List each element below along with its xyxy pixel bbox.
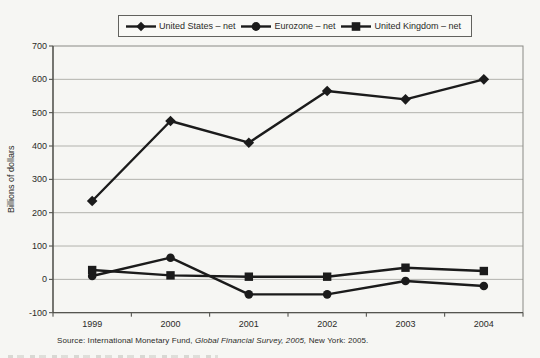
svg-text:0: 0 (42, 274, 47, 284)
y-gridlines (53, 79, 523, 279)
source-prefix: Source: International Monetary Fund, (57, 336, 195, 345)
source-title-italic: Global Financial Survey, 2005, (195, 336, 306, 345)
svg-text:100: 100 (32, 241, 47, 251)
svg-text:2003: 2003 (395, 319, 415, 329)
svg-text:-100: -100 (29, 308, 47, 318)
svg-text:2004: 2004 (474, 319, 494, 329)
y-axis-title: Billions of dollars (6, 145, 16, 213)
scanned-chart-figure: United States – net Eurozone – net Unite… (0, 0, 540, 358)
svg-text:400: 400 (32, 141, 47, 151)
line-chart: -100010020030040050060070019992000200120… (0, 0, 540, 358)
svg-text:2002: 2002 (317, 319, 337, 329)
series-square (88, 263, 488, 280)
svg-text:2000: 2000 (160, 319, 180, 329)
svg-text:700: 700 (32, 41, 47, 51)
svg-text:2001: 2001 (239, 319, 259, 329)
svg-text:600: 600 (32, 74, 47, 84)
x-tick-labels: 199920002001200220032004 (82, 319, 494, 329)
y-tick-labels: -1000100200300400500600700 (29, 41, 47, 318)
svg-text:300: 300 (32, 174, 47, 184)
source-note: Source: International Monetary Fund, Glo… (57, 336, 368, 345)
series-diamond (87, 74, 489, 206)
svg-text:200: 200 (32, 208, 47, 218)
svg-text:500: 500 (32, 108, 47, 118)
source-suffix: New York: 2005. (306, 336, 368, 345)
svg-text:1999: 1999 (82, 319, 102, 329)
